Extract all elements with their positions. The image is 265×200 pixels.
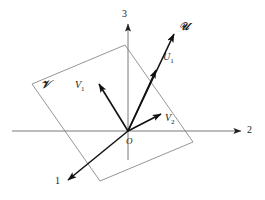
vector-u1-label-sub: 1 (170, 57, 174, 65)
origin-label: O (126, 137, 133, 146)
vector-u1-line (128, 70, 156, 131)
vector-v1-label-sub: 1 (81, 85, 85, 93)
axis-2-label: 2 (247, 125, 252, 135)
plane-label: 𝒱 (41, 79, 50, 90)
vector-v1-line (99, 84, 128, 131)
vector-v2-line (128, 114, 161, 131)
vector-v1-label: V1 (75, 80, 85, 93)
vector-v2-label: V2 (165, 113, 175, 126)
axis-3-label: 3 (122, 9, 127, 19)
vector-u1-label: U1 (163, 52, 174, 65)
vector-v2-label-sub: 2 (171, 118, 175, 126)
vector-u-script-label: 𝒰 (179, 21, 189, 32)
axis-1-label: 1 (55, 176, 60, 186)
diagram-canvas (0, 0, 265, 200)
vector-diagram-figure: 1 2 3 O 𝒰 𝒱 U1 V1 V2 (0, 0, 265, 200)
